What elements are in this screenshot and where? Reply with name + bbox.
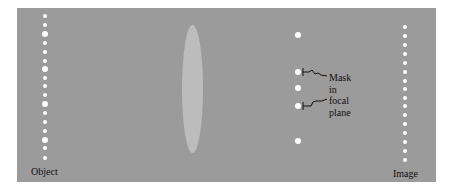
mask-label: Mask in focal plane — [329, 72, 351, 118]
mask-pointer-lines — [0, 0, 454, 191]
mask-label-line3: focal — [329, 95, 351, 107]
mask-label-line4: plane — [329, 107, 351, 119]
mask-label-line1: Mask — [329, 72, 351, 84]
image-label: Image — [393, 168, 418, 179]
mask-label-line2: in — [329, 84, 351, 96]
object-label: Object — [31, 166, 58, 177]
